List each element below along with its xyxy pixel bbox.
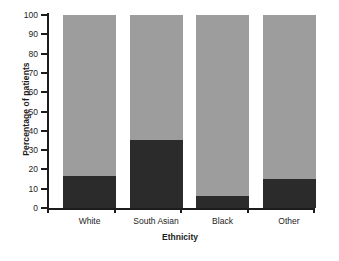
y-tick-label: 10 <box>29 184 38 194</box>
plot-area: 0102030405060708090100 WhiteSouth AsianB… <box>47 15 313 208</box>
y-tick-mark <box>41 111 47 113</box>
bar-segment-upper <box>196 15 249 196</box>
y-tick-label: 80 <box>29 49 38 59</box>
y-tick-label: 0 <box>33 203 38 213</box>
y-tick-mark <box>41 33 47 35</box>
y-tick-label: 100 <box>24 10 38 20</box>
x-tick-mark <box>47 208 49 213</box>
x-category-label: Black <box>212 216 233 226</box>
bar-segment-upper <box>130 15 183 139</box>
y-tick-label: 40 <box>29 126 38 136</box>
bar-segment-lower <box>130 140 183 209</box>
bar-chart: Percentage of patients 01020304050607080… <box>0 0 339 261</box>
y-tick-label: 90 <box>29 29 38 39</box>
x-category-label: South Asian <box>133 216 178 226</box>
x-category-label: Other <box>278 216 299 226</box>
y-tick-mark <box>41 188 47 190</box>
x-tick-mark <box>247 208 249 213</box>
y-tick-mark <box>41 72 47 74</box>
y-tick-label: 70 <box>29 68 38 78</box>
y-tick-mark <box>41 130 47 132</box>
bar-segment-upper <box>263 15 316 179</box>
bar-segment-lower <box>63 176 116 208</box>
bar-segment-upper <box>63 15 116 176</box>
x-tick-mark <box>180 208 182 213</box>
y-tick-label: 50 <box>29 107 38 117</box>
y-tick-label: 30 <box>29 145 38 155</box>
bar-segment-lower <box>263 179 316 208</box>
y-tick-mark <box>41 91 47 93</box>
y-tick-mark <box>41 149 47 151</box>
x-tick-mark <box>313 208 315 213</box>
bar-segment-lower <box>196 196 249 208</box>
y-tick-mark <box>41 14 47 16</box>
y-tick-label: 20 <box>29 164 38 174</box>
y-tick-mark <box>41 168 47 170</box>
y-axis-line <box>47 13 49 210</box>
x-tick-mark <box>114 208 116 213</box>
x-category-label: White <box>79 216 101 226</box>
x-axis-title: Ethnicity <box>47 232 313 242</box>
y-tick-mark <box>41 53 47 55</box>
y-tick-label: 60 <box>29 87 38 97</box>
